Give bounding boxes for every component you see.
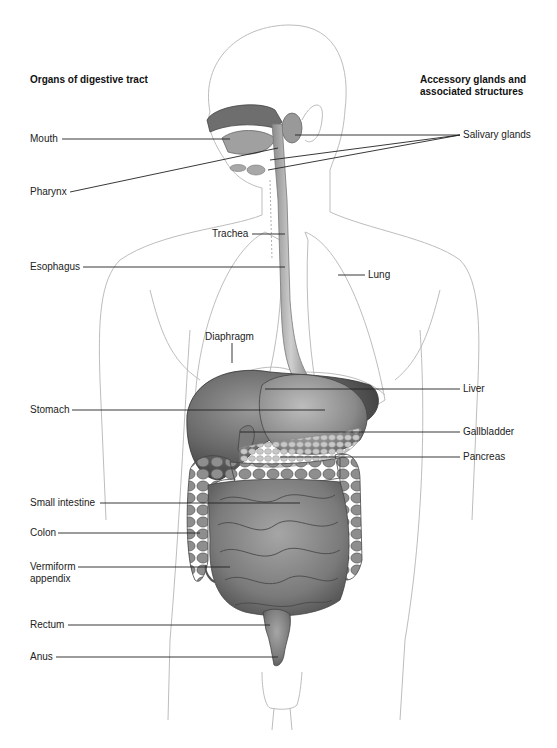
header-accessory-glands-line1: Accessory glands and [420,74,526,86]
digestive-system-illustration [0,0,557,748]
label-lung: Lung [368,269,390,281]
label-esophagus: Esophagus [30,261,80,273]
label-rectum: Rectum [30,619,64,631]
label-mouth: Mouth [30,133,58,145]
label-pancreas: Pancreas [463,451,505,463]
label-colon: Colon [30,527,56,539]
label-pharynx: Pharynx [30,186,67,198]
oral-cavity [207,105,302,175]
label-appendix: appendix [30,573,71,585]
header-digestive-tract: Organs of digestive tract [30,74,148,86]
label-diaphragm: Diaphragm [205,331,254,343]
small-intestine-shape [208,479,349,615]
label-liver: Liver [463,383,485,395]
header-accessory-glands-line2: associated structures [420,86,523,98]
label-anus: Anus [30,651,53,663]
label-stomach: Stomach [30,404,69,416]
label-trachea: Trachea [212,228,248,240]
label-gallbladder: Gallbladder [463,426,514,438]
label-small-intestine: Small intestine [30,497,95,509]
label-vermiform: Vermiform [30,561,76,573]
label-salivary-glands: Salivary glands [463,129,531,141]
